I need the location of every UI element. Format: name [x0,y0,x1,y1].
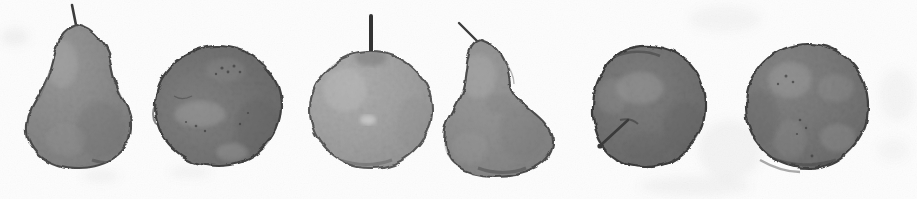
fruit-study-illustration [0,0,917,199]
artwork-canvas: Six Fruit Studies [0,0,917,199]
